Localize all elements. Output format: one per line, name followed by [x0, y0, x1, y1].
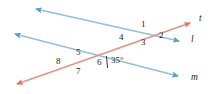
parallel-line-m — [15, 34, 178, 76]
angle-label-4: 4 — [119, 33, 124, 42]
angle-label-3: 3 — [141, 38, 146, 47]
line-label-m: m — [191, 73, 198, 83]
diagram-canvas — [0, 0, 215, 94]
geometry-diagram: 1 2 3 4 5 6 7 8 35° t l m — [0, 0, 215, 94]
angle-label-7: 7 — [76, 67, 81, 76]
angle-label-6: 6 — [97, 58, 102, 67]
parallel-line-l — [36, 9, 179, 41]
line-label-t: t — [199, 14, 202, 24]
transversal-line-t — [17, 23, 190, 84]
angle-label-8: 8 — [56, 57, 61, 66]
angle-measure-35-degrees: 35° — [111, 56, 124, 65]
angle-label-5: 5 — [76, 48, 81, 57]
angle-label-2: 2 — [159, 31, 164, 40]
angle-label-1: 1 — [141, 20, 146, 29]
line-label-l: l — [191, 35, 194, 45]
